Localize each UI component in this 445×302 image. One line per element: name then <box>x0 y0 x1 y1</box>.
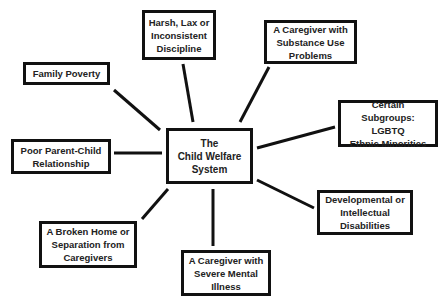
node-label: A Caregiver with Severe Mental Illness <box>189 254 264 293</box>
node-family-poverty: Family Poverty <box>23 62 110 85</box>
node-certain-subgroups: Certain Subgroups: LGBTQ Ethnic Minoriti… <box>338 100 438 147</box>
link-broken-home <box>142 189 168 219</box>
center-node-label: The Child Welfare System <box>178 137 242 176</box>
node-label: Developmental or Intellectual Disabiliti… <box>325 193 405 232</box>
center-node-child-welfare-system: The Child Welfare System <box>166 128 253 184</box>
node-developmental-disabilities: Developmental or Intellectual Disabiliti… <box>317 190 413 235</box>
node-harsh-discipline: Harsh, Lax or Inconsistent Discipline <box>142 10 216 60</box>
link-substance <box>240 67 269 122</box>
node-label: Harsh, Lax or Inconsistent Discipline <box>149 16 210 55</box>
link-subgroups <box>257 127 335 148</box>
node-poor-parent-child: Poor Parent-Child Relationship <box>11 139 111 174</box>
node-substance-use: A Caregiver with Substance Use Problems <box>264 20 357 64</box>
node-label: Family Poverty <box>33 67 101 80</box>
node-severe-mental-illness: A Caregiver with Severe Mental Illness <box>181 250 271 296</box>
node-label: Poor Parent-Child Relationship <box>21 144 102 170</box>
node-broken-home: A Broken Home or Separation from Caregiv… <box>39 221 137 268</box>
node-label: Certain Subgroups: LGBTQ Ethnic Minoriti… <box>344 98 432 150</box>
node-label: A Caregiver with Substance Use Problems <box>273 23 348 62</box>
link-developmental <box>257 180 314 208</box>
link-poverty <box>114 90 160 130</box>
link-harsh <box>183 64 193 122</box>
node-label: A Broken Home or Separation from Caregiv… <box>46 225 129 264</box>
